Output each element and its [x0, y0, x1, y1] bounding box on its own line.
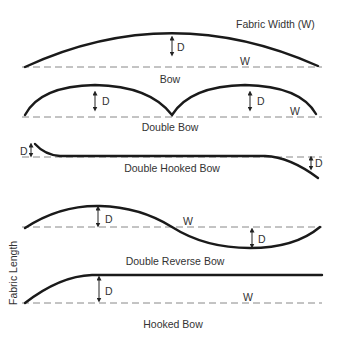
double-bow-curve — [25, 85, 316, 115]
caption-double-bow: Double Bow — [142, 121, 199, 133]
depth-label: D — [177, 41, 185, 53]
bow-diagram: Fabric Width (W) D W Bow — [22, 18, 322, 85]
double-reverse-bow-diagram: D W D Double Reverse Bow — [22, 206, 322, 267]
depth-label: D — [258, 233, 266, 245]
fabric-bow-diagram: Fabric Width (W) D W Bow D D W Double Bo… — [0, 0, 338, 338]
depth-label: D — [102, 95, 110, 107]
hooked-bow-curve — [25, 275, 322, 303]
depth-label: D — [257, 95, 265, 107]
depth-label: D — [20, 145, 28, 157]
fabric-length-label: Fabric Length — [7, 241, 19, 305]
hooked-bow-diagram: D W Hooked Bow — [22, 275, 322, 330]
depth-label: D — [105, 213, 113, 225]
width-label: W — [183, 215, 193, 227]
fabric-width-label: Fabric Width (W) — [236, 18, 315, 30]
double-hooked-bow-diagram: D D Double Hooked Bow — [20, 144, 323, 178]
width-label: W — [243, 291, 253, 303]
depth-label: D — [105, 285, 113, 297]
width-label: W — [240, 55, 250, 67]
double-bow-diagram: D D W Double Bow — [22, 85, 322, 133]
width-label: W — [290, 105, 300, 117]
caption-hooked-bow: Hooked Bow — [143, 318, 203, 330]
caption-double-reverse-bow: Double Reverse Bow — [126, 255, 225, 267]
depth-label: D — [315, 157, 323, 169]
caption-double-hooked-bow: Double Hooked Bow — [124, 162, 220, 174]
caption-bow: Bow — [160, 73, 181, 85]
